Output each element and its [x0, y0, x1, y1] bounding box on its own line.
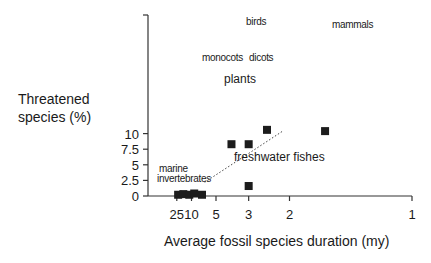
point-marine-invertebrates-5: [198, 191, 206, 199]
y-tick-label: 5: [132, 158, 139, 173]
label-plants: plants: [224, 72, 256, 86]
point-labels: birds mammals monocots dicots plants fre…: [157, 16, 374, 184]
x-tick-label: 3: [245, 207, 252, 222]
label-invertebrates: invertebrates: [157, 173, 211, 184]
point-monocots: [227, 140, 235, 148]
y-tick-label: 10: [125, 127, 139, 142]
y-axis-title-line2: species (%): [18, 109, 91, 125]
label-monocots: monocots: [202, 52, 243, 63]
point-dicots: [245, 140, 253, 148]
x-tick-label: 2: [286, 207, 293, 222]
x-tick-label: 25: [170, 207, 184, 222]
label-freshwater-fishes: freshwater fishes: [234, 150, 325, 164]
point-marine-invertebrates-4: [190, 190, 198, 198]
label-mammals: mammals: [332, 19, 374, 30]
point-freshwater-fishes: [245, 182, 253, 190]
x-tick-label: 5: [212, 207, 219, 222]
y-tick-label: 0: [132, 189, 139, 204]
x-tick-label: 10: [184, 207, 198, 222]
point-mammals: [321, 127, 329, 135]
label-dicots: dicots: [249, 52, 274, 63]
x-ticks: 25105321: [170, 196, 416, 222]
y-tick-label: 2.5: [121, 173, 139, 188]
label-birds: birds: [246, 16, 266, 27]
chart: 02.557.510 25105321 birds mammals monoco…: [0, 0, 431, 263]
y-tick-label: 7.5: [121, 142, 139, 157]
x-axis-title: Average fossil species duration (my): [164, 233, 389, 249]
point-birds: [263, 126, 271, 134]
x-tick-label: 1: [408, 207, 415, 222]
y-ticks: 02.557.510: [121, 127, 148, 204]
y-axis-title-line1: Threatened: [18, 91, 90, 107]
